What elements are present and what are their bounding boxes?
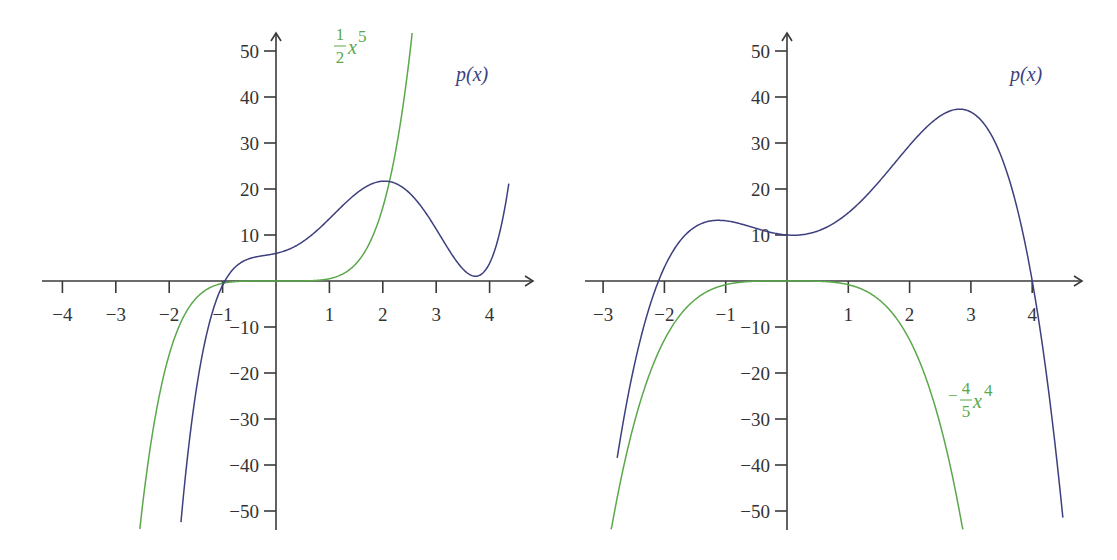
left-x-ticks: −4−3−2−11234 [52, 281, 495, 325]
fraction-numerator: 4 [962, 379, 971, 398]
x-tick-label: −3 [593, 304, 613, 325]
x-tick-label: 2 [378, 304, 388, 325]
right-leading-term-label: − 4 5 x 4 [948, 379, 993, 421]
x-tick-label: −1 [716, 304, 736, 325]
y-tick-label: 10 [240, 225, 259, 246]
y-tick-label: 40 [751, 87, 770, 108]
variable-x: x [972, 390, 982, 412]
y-tick-label: −40 [740, 455, 770, 476]
y-tick-label: −30 [229, 409, 259, 430]
variable-x: x [347, 36, 357, 58]
exponent: 5 [358, 27, 367, 46]
x-tick-label: −3 [106, 304, 126, 325]
right-p-label: p(x) [1008, 63, 1043, 86]
fraction-denominator: 2 [336, 48, 345, 67]
left-p-label: p(x) [454, 63, 489, 86]
x-tick-label: 1 [325, 304, 335, 325]
right-p-curve [617, 109, 1063, 517]
left-plot: −4−3−2−11234 5040302010−10−20−30−40−50 1… [42, 25, 533, 530]
y-tick-label: −20 [740, 363, 770, 384]
right-x-ticks: −3−2−11234 [593, 281, 1037, 325]
y-tick-label: −30 [740, 409, 770, 430]
y-tick-label: 50 [751, 41, 770, 62]
figure: −4−3−2−11234 5040302010−10−20−30−40−50 1… [0, 0, 1117, 560]
right-plot: −3−2−11234 5040302010−10−20−30−40−50 − 4… [585, 33, 1082, 530]
y-tick-label: −50 [229, 501, 259, 522]
y-tick-label: 30 [240, 133, 259, 154]
left-leading-term-label: 1 2 x 5 [334, 25, 367, 67]
x-tick-label: −2 [654, 304, 674, 325]
exponent: 4 [984, 381, 993, 400]
x-tick-label: 1 [844, 304, 854, 325]
y-tick-label: −20 [229, 363, 259, 384]
y-tick-label: −50 [740, 501, 770, 522]
y-tick-label: 50 [240, 41, 259, 62]
y-tick-label: −40 [229, 455, 259, 476]
y-tick-label: −10 [740, 317, 770, 338]
x-tick-label: 4 [485, 304, 495, 325]
fraction-denominator: 5 [962, 402, 971, 421]
y-tick-label: 30 [751, 133, 770, 154]
x-tick-label: 3 [431, 304, 441, 325]
x-tick-label: −4 [52, 304, 73, 325]
minus-sign: − [948, 386, 958, 405]
y-tick-label: 40 [240, 87, 259, 108]
x-tick-label: 2 [905, 304, 915, 325]
y-tick-label: 20 [751, 179, 770, 200]
y-tick-label: 20 [240, 179, 259, 200]
x-tick-label: −2 [159, 304, 179, 325]
y-tick-label: −10 [229, 317, 259, 338]
fraction-numerator: 1 [336, 25, 345, 44]
x-tick-label: 3 [966, 304, 976, 325]
